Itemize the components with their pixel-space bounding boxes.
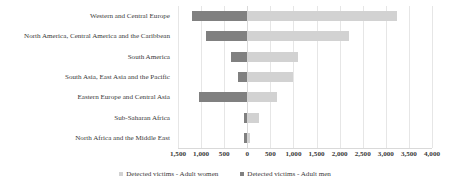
x-axis-line [178,148,432,149]
x-tick-label: 1,500 [309,150,325,158]
gridline [432,6,433,148]
bar-segment-adult-women[interactable] [247,113,259,123]
bar-segment-adult-women[interactable] [247,133,250,143]
category-label: South America [128,47,170,67]
bar-row [178,26,432,46]
legend-label: Detected victims - Adult women [126,170,218,178]
x-tick-label: 4,000 [424,150,440,158]
bar-row [178,47,432,67]
x-tick-label: 500 [265,150,276,158]
bar-segment-adult-men[interactable] [206,31,248,41]
bar-segment-adult-men[interactable] [199,92,247,102]
bar-row [178,87,432,107]
bar-segment-adult-women[interactable] [247,52,298,62]
plot-area [178,6,432,148]
x-axis-tick-labels: 1,5001,00050005001,0001,5002,0002,5003,0… [178,150,432,162]
x-tick-label: 500 [219,150,230,158]
category-label: Western and Central Europe [90,6,170,26]
category-label: Eastern Europe and Central Asia [77,87,170,107]
bar-segment-adult-women[interactable] [247,31,349,41]
legend-swatch-icon [119,172,123,176]
bar-row [178,107,432,127]
category-axis-labels: Western and Central Europe North America… [0,6,174,148]
chart-container: Western and Central Europe North America… [0,0,450,192]
bar-row [178,6,432,26]
x-tick-label: 1,500 [170,150,186,158]
x-tick-label: 2,500 [355,150,371,158]
bar-segment-adult-women[interactable] [247,92,277,102]
legend-item-adult-women[interactable]: Detected victims - Adult women [119,170,218,178]
category-label: North Africa and the Middle East [75,128,170,148]
bar-segment-adult-men[interactable] [231,52,247,62]
x-tick-label: 0 [245,150,249,158]
x-tick-label: 3,500 [401,150,417,158]
category-label: North America, Central America and the C… [24,26,170,46]
bar-segment-adult-women[interactable] [247,11,397,21]
category-label: South Asia, East Asia and the Pacific [65,67,170,87]
bar-segment-adult-men[interactable] [192,11,247,21]
legend-item-adult-men[interactable]: Detected victims - Adult men [240,170,331,178]
bar-segment-adult-men[interactable] [238,72,247,82]
chart-legend: Detected victims - Adult women Detected … [0,170,450,178]
bar-row [178,67,432,87]
bar-segment-adult-women[interactable] [247,72,293,82]
x-tick-label: 1,000 [285,150,301,158]
legend-swatch-icon [240,172,244,176]
bar-row [178,128,432,148]
x-tick-label: 1,000 [193,150,209,158]
x-tick-label: 2,000 [332,150,348,158]
category-label: Sub-Saharan Africa [114,108,170,128]
x-tick-label: 3,000 [378,150,394,158]
legend-label: Detected victims - Adult men [247,170,331,178]
